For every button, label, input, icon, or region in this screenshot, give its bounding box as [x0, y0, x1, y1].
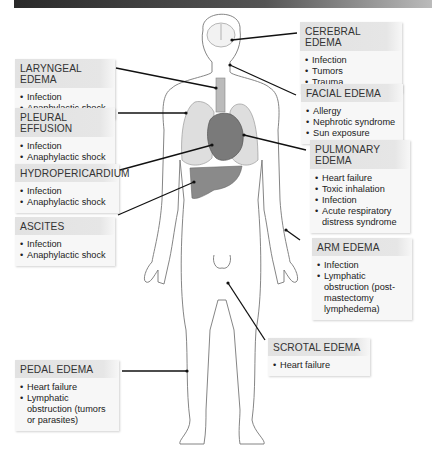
label-cerebral-edema: CEREBRAL EDEMA InfectionTumorsTrauma — [300, 22, 402, 93]
label-title: CEREBRAL EDEMA — [300, 22, 402, 51]
label-facial-edema: FACIAL EDEMA AllergyNephrotic syndromeSu… — [301, 84, 403, 144]
label-arm-edema: ARM EDEMA InfectionLymphatic obstruction… — [312, 238, 412, 320]
label-hydropericardium: HYDROPERICARDIUM InfectionAnaphylactic s… — [15, 164, 119, 213]
label-pleural-effusion: PLEURAL EFFUSION InfectionAnaphylactic s… — [15, 108, 115, 168]
leader-dots — [184, 38, 287, 372]
heart — [208, 113, 244, 160]
trachea — [216, 78, 225, 112]
label-pedal-edema: PEDAL EDEMA Heart failureLymphatic obstr… — [15, 360, 119, 431]
label-ascites: ASCITES InfectionAnaphylactic shock — [15, 217, 115, 266]
liver — [190, 166, 242, 199]
label-pulmonary-edema: PULMONARY EDEMA Heart failureToxic inhal… — [310, 140, 410, 233]
label-scrotal-edema: SCROTAL EDEMA Heart failure — [268, 338, 370, 376]
leader-lines — [116, 33, 306, 371]
brain — [207, 23, 235, 47]
